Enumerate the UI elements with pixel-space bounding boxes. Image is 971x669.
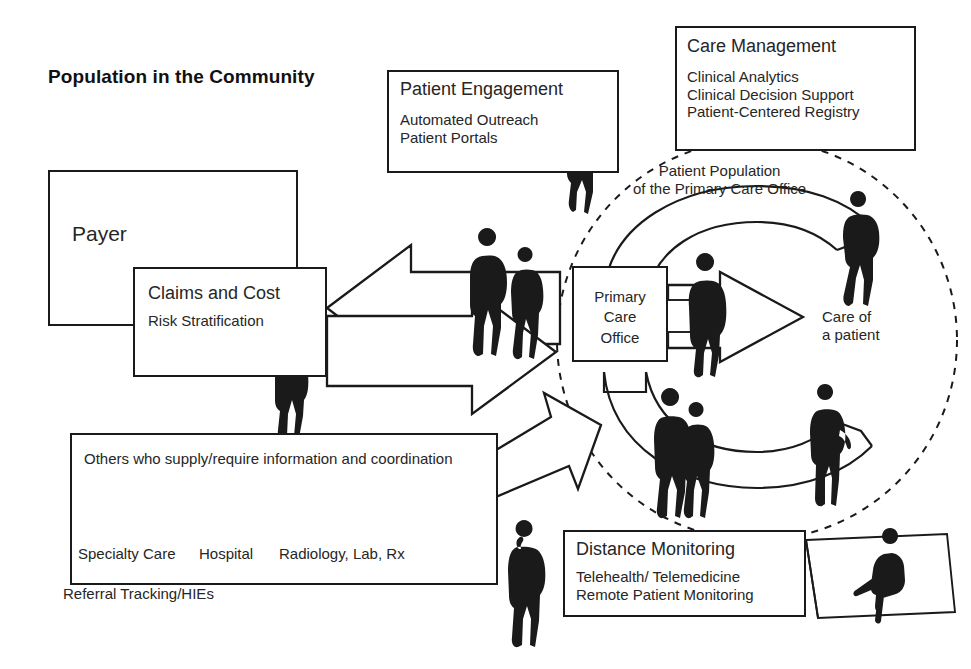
specialty-care-caption: Specialty Care bbox=[78, 545, 176, 563]
primary-care-office-label: Primary Care Office bbox=[572, 287, 668, 348]
others-title: Others who supply/require information an… bbox=[84, 450, 453, 468]
distance-monitoring-items: Telehealth/ Telemedicine Remote Patient … bbox=[576, 568, 754, 603]
radiology-lab-rx-caption: Radiology, Lab, Rx bbox=[279, 545, 405, 563]
patient-engagement-items: Automated Outreach Patient Portals bbox=[400, 111, 538, 146]
diagram-canvas: Population in the Community Payer Claims… bbox=[0, 0, 971, 669]
payer-label: Payer bbox=[72, 222, 127, 247]
patient-engagement-title: Patient Engagement bbox=[400, 79, 563, 100]
silhouette-seated-person bbox=[853, 528, 905, 624]
care-management-title: Care Management bbox=[687, 36, 836, 57]
referral-tracking-label: Referral Tracking/HIEs bbox=[63, 585, 214, 603]
silhouette-person-hand-on-hip bbox=[810, 384, 851, 506]
outer-flow-cap-left-bottom bbox=[604, 372, 646, 392]
silhouette-person-on-phone bbox=[508, 520, 545, 647]
page-title: Population in the Community bbox=[48, 66, 315, 88]
distance-monitoring-title: Distance Monitoring bbox=[576, 539, 735, 560]
claims-title: Claims and Cost bbox=[148, 283, 280, 304]
arrow-pco-to-care bbox=[668, 272, 803, 362]
claims-subtitle: Risk Stratification bbox=[148, 312, 264, 330]
care-of-a-patient-caption: Care of a patient bbox=[822, 308, 880, 345]
care-management-items: Clinical Analytics Clinical Decision Sup… bbox=[687, 68, 860, 121]
hospital-caption: Hospital bbox=[199, 545, 253, 563]
laptop-base-shape bbox=[806, 540, 818, 618]
patient-population-caption: Patient Population of the Primary Care O… bbox=[633, 162, 806, 199]
silhouette-woman-bottom-left bbox=[682, 402, 714, 518]
